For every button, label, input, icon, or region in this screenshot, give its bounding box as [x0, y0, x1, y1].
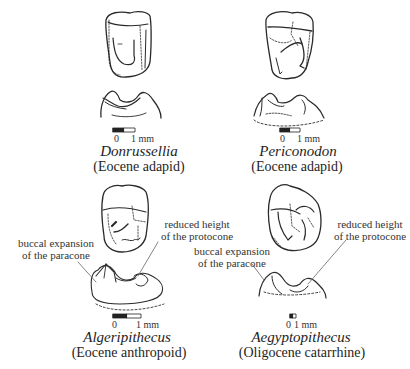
aegyptopithecus-group: (Oligocene catarrhine) [230, 346, 374, 360]
algeripithecus-lateral-view [91, 264, 164, 310]
periconodon-species-name: Periconodon [248, 144, 348, 159]
aegyptopithecus-species-name: Aegyptopithecus [246, 330, 356, 345]
aegyptopithecus-lateral-view [259, 272, 326, 298]
algeripithecus-species-name: Algeripithecus [72, 330, 182, 345]
algeripithecus-annotation-reduced-protocone: reduced height of the protocone [154, 218, 240, 242]
aegyptopithecus-annotation-buccal-expansion: buccal expansion of the paracone [192, 245, 272, 269]
periconodon-occlusal-view [266, 12, 313, 79]
aegyptopithecus-occlusal-view [269, 185, 322, 251]
aegyptopithecus-annotation-reduced-protocone: reduced height of the protocone [330, 218, 410, 242]
periconodon-group: (Eocene adapid) [234, 160, 360, 174]
donrussellia-species-name: Donrussellia [90, 144, 188, 159]
donrussellia-group: (Eocene adapid) [78, 160, 200, 174]
donrussellia-occlusal-view [106, 12, 151, 78]
donrussellia-lateral-view [101, 91, 161, 118]
donrussellia-scale-bar [113, 128, 135, 132]
algeripithecus-scale-bar [113, 314, 141, 318]
algeripithecus-group: (Eocene anthropoid) [64, 346, 194, 360]
tooth-drawings [0, 0, 410, 369]
aegyptopithecus-scale-bar [290, 314, 296, 318]
periconodon-scale-bar [280, 128, 300, 132]
algeripithecus-annotation-buccal-expansion: buccal expansion of the paracone [16, 237, 96, 261]
algeripithecus-occlusal-view [102, 185, 148, 252]
periconodon-lateral-view [254, 93, 324, 126]
